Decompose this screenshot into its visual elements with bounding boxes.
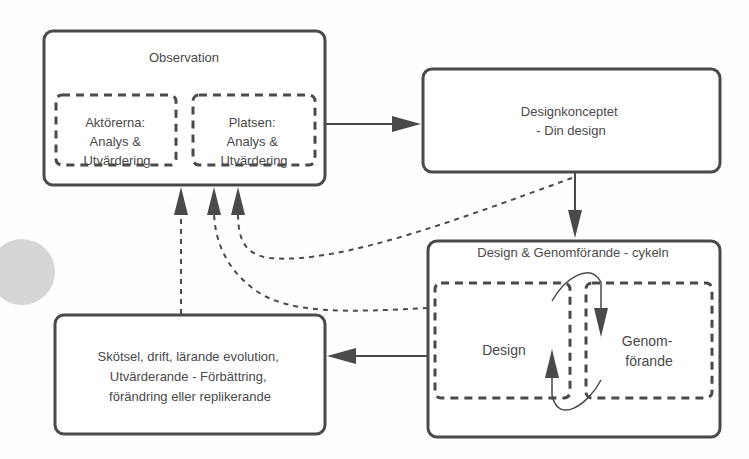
arrowhead-left-icon xyxy=(327,348,356,364)
edge-cycle-to-observation xyxy=(214,213,428,311)
arrowhead-right-icon xyxy=(392,116,421,132)
maintenance-label: Skötsel, drift, lärande evolution, Utvär… xyxy=(97,349,282,404)
observation-title: Observation xyxy=(149,50,219,65)
arrowhead-up-icon xyxy=(207,187,221,215)
observation-box: Observation Aktörerna: Analys & Utvärder… xyxy=(44,31,325,185)
decorative-circle xyxy=(0,239,55,305)
design-label: Design xyxy=(482,342,526,358)
maintenance-box: Skötsel, drift, lärande evolution, Utvär… xyxy=(55,315,325,434)
arrowhead-down-icon xyxy=(568,210,582,238)
diagram-canvas: Observation Aktörerna: Analys & Utvärder… xyxy=(0,0,749,459)
cycle-title: Design & Genomförande - cykeln xyxy=(477,245,668,260)
actors-label: Aktörerna: Analys & Utvärdering xyxy=(83,115,150,168)
cycle-box: Design & Genomförande - cykeln Design Ge… xyxy=(428,241,720,437)
concept-box: Designkonceptet - Din design xyxy=(423,69,720,172)
arrowhead-up-icon xyxy=(174,187,188,215)
arrowhead-up-icon xyxy=(231,187,245,215)
place-label: Platsen: Analys & Utvärdering xyxy=(220,115,287,168)
